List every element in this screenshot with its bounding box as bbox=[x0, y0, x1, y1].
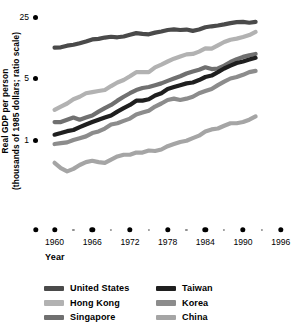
series-line-korea bbox=[55, 71, 256, 144]
x-axis-dot-major bbox=[33, 227, 38, 232]
y-axis-title-line-2: (thousands of 1985 dollars; ratio scale) bbox=[11, 0, 22, 222]
gdp-per-person-line-chart: Real GDP per person (thousands of 1985 d… bbox=[0, 0, 300, 325]
legend-label-singapore: Singapore bbox=[70, 312, 115, 322]
x-tick-label-1984: 1984 bbox=[196, 237, 215, 247]
legend-swatch-hong-kong bbox=[44, 300, 64, 306]
legend-item-korea: Korea bbox=[156, 298, 294, 308]
x-axis-dot-major bbox=[52, 227, 57, 232]
series-line-singapore bbox=[55, 54, 256, 122]
legend-swatch-singapore bbox=[44, 315, 64, 321]
legend-item-singapore: Singapore bbox=[44, 312, 156, 322]
y-tick-label-5: 5 bbox=[3, 74, 29, 83]
series-line-china bbox=[55, 116, 256, 171]
legend-item-united-states: United States bbox=[44, 283, 156, 293]
legend-swatch-korea bbox=[156, 300, 176, 306]
x-tick-label-1996: 1996 bbox=[271, 237, 290, 247]
chart-legend: United States Taiwan Hong Kong Korea Sin… bbox=[44, 281, 294, 325]
x-axis-dot-major bbox=[90, 227, 95, 232]
plot-area bbox=[0, 0, 300, 325]
legend-label-china: China bbox=[182, 312, 208, 322]
y-tick-dot-25 bbox=[33, 15, 38, 20]
legend-label-hong-kong: Hong Kong bbox=[70, 298, 120, 308]
legend-item-taiwan: Taiwan bbox=[156, 283, 294, 293]
x-axis-dot-major bbox=[240, 227, 245, 232]
x-axis-dot-major bbox=[127, 227, 132, 232]
x-axis-dot-major bbox=[165, 227, 170, 232]
legend-label-taiwan: Taiwan bbox=[182, 283, 213, 293]
series-line-taiwan bbox=[55, 58, 256, 135]
legend-swatch-united-states bbox=[44, 286, 64, 292]
x-axis-dot-minor bbox=[185, 229, 187, 231]
x-axis-dot-minor bbox=[110, 229, 112, 231]
y-tick-label-1: 1 bbox=[3, 136, 29, 145]
x-axis-dot-minor bbox=[72, 229, 74, 231]
series-line-hong-kong bbox=[55, 32, 256, 110]
x-axis-dot-major bbox=[203, 227, 208, 232]
x-tick-label-1990: 1990 bbox=[233, 237, 252, 247]
x-axis-dot-minor bbox=[223, 229, 225, 231]
y-tick-label-25: 25 bbox=[3, 13, 29, 22]
x-axis-dot-minor bbox=[261, 229, 263, 231]
legend-label-united-states: United States bbox=[70, 283, 129, 293]
legend-swatch-china bbox=[156, 315, 176, 321]
x-tick-label-1978: 1978 bbox=[158, 237, 177, 247]
y-axis-title-line-1: Real GDP per person bbox=[0, 0, 11, 222]
x-axis-dot-major bbox=[278, 227, 283, 232]
y-axis-title: Real GDP per person (thousands of 1985 d… bbox=[0, 0, 30, 230]
x-axis-title: Year bbox=[45, 252, 65, 262]
x-tick-label-1966: 1966 bbox=[83, 237, 102, 247]
legend-label-korea: Korea bbox=[182, 298, 208, 308]
x-axis-dot-minor bbox=[148, 229, 150, 231]
y-tick-dot-1 bbox=[33, 138, 38, 143]
legend-item-china: China bbox=[156, 312, 294, 322]
legend-swatch-taiwan bbox=[156, 286, 176, 292]
legend-item-hong-kong: Hong Kong bbox=[44, 298, 156, 308]
x-tick-label-1960: 1960 bbox=[45, 237, 64, 247]
x-tick-label-1972: 1972 bbox=[120, 237, 139, 247]
series-line-united-states bbox=[55, 22, 256, 48]
y-tick-dot-5 bbox=[33, 76, 38, 81]
